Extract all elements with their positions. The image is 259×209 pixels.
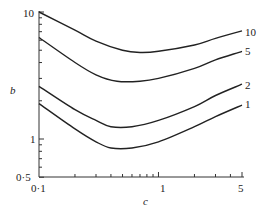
x-tick-label-5: 5 [238,182,244,194]
curve-label-2: 2 [245,79,251,91]
y-tick-label-10: 10 [23,7,35,19]
chart: 10 1 0·5 0·1 1 5 b c 10 5 2 1 [0,0,259,209]
x-tick-label-1: 1 [160,182,166,194]
curves [39,12,242,149]
curve-label-5: 5 [245,45,251,57]
curve-10 [39,12,242,53]
y-tick-label-1: 1 [30,133,36,145]
y-axis-ticks [39,12,44,177]
curve-5 [39,38,242,82]
x-axis-ticks [75,172,242,177]
y-axis-title: b [10,84,16,96]
x-tick-label-0-1: 0·1 [31,182,46,194]
y-tick-label-0-5: 0·5 [16,171,31,183]
x-axis-title: c [143,195,148,207]
curve-2 [39,84,242,127]
curve-label-1: 1 [245,98,251,110]
curve-1 [39,104,242,149]
curve-label-10: 10 [245,26,257,38]
